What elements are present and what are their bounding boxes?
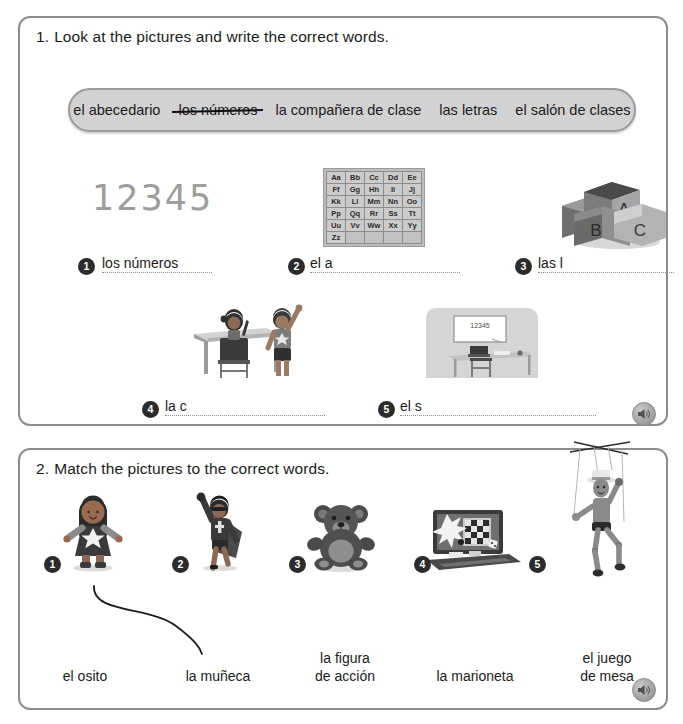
answer-text-4: la c <box>165 398 325 415</box>
marionette-image[interactable] <box>548 440 656 580</box>
alpha-cell-empty <box>403 232 422 244</box>
svg-text:C: C <box>634 221 646 240</box>
whiteboard-text: 12345 <box>470 322 490 329</box>
exercise-1-instruction: Look at the pictures and write the corre… <box>54 28 389 45</box>
alpha-cell: Ss <box>384 208 403 220</box>
word-bank-option-2[interactable]: los números <box>178 102 257 118</box>
answer-text-2: el a <box>310 255 460 272</box>
answer-slot-4[interactable]: la c <box>165 398 325 416</box>
picture-marker-1: 1 <box>44 556 61 573</box>
svg-text:B: B <box>590 221 601 240</box>
table-row: Ff Gg Hh Ii Jj <box>327 184 422 196</box>
answer-rule-5 <box>400 415 596 416</box>
action-figure-svg <box>186 492 258 572</box>
alpha-cell: Ww <box>365 220 384 232</box>
picture-marker-3: 3 <box>289 556 306 573</box>
exercise-1-card: 1.Look at the pictures and write the cor… <box>18 16 668 426</box>
alpha-cell: Gg <box>346 184 365 196</box>
match-word-2[interactable]: la muñeca <box>158 668 278 686</box>
match-word-1[interactable]: el osito <box>30 668 140 686</box>
alpha-cell-empty <box>365 232 384 244</box>
doll-image[interactable] <box>56 494 130 572</box>
classmates-svg <box>188 294 308 380</box>
alpha-cell: Xx <box>384 220 403 232</box>
answer-text-5: el s <box>400 398 596 415</box>
item-marker-5: 5 <box>378 401 395 418</box>
alpha-cell-empty <box>346 232 365 244</box>
alpha-cell: Jj <box>403 184 422 196</box>
alpha-cell: Mm <box>365 196 384 208</box>
match-word-5[interactable]: el juego de mesa <box>552 650 662 685</box>
alpha-cell: Kk <box>327 196 346 208</box>
answer-text-1: los números <box>102 255 212 272</box>
exercise-1-prompt: 1.Look at the pictures and write the cor… <box>36 28 389 46</box>
speaker-icon <box>637 408 651 420</box>
answer-rule-1 <box>102 272 212 273</box>
alpha-cell: Bb <box>346 172 365 184</box>
alpha-cell: Nn <box>384 196 403 208</box>
word-bank-option-3[interactable]: la compañera de clase <box>275 102 421 118</box>
teddy-bear-svg <box>300 498 382 572</box>
answer-rule-2 <box>310 272 460 273</box>
classroom-image: 12345 <box>430 296 542 378</box>
alpha-cell: Tt <box>403 208 422 220</box>
answer-text-3: las l <box>538 255 674 272</box>
table-row: Pp Qq Rr Ss Tt <box>327 208 422 220</box>
alpha-cell: Aa <box>327 172 346 184</box>
picture-marker-4: 4 <box>414 556 431 573</box>
table-row: Kk Ll Mm Nn Oo <box>327 196 422 208</box>
alphabet-chart-image: Aa Bb Cc Dd Ee Ff Gg Hh Ii Jj Kk Ll Mm <box>323 168 425 247</box>
answer-slot-1[interactable]: los números <box>102 255 212 273</box>
answer-slot-5[interactable]: el s <box>400 398 596 416</box>
table-row: Uu Vv Ww Xx Yy <box>327 220 422 232</box>
table-row: Zz <box>327 232 422 244</box>
alpha-cell: Cc <box>365 172 384 184</box>
abc-blocks-svg: A B C <box>556 168 676 250</box>
doll-svg <box>56 494 130 572</box>
alphabet-table: Aa Bb Cc Dd Ee Ff Gg Hh Ii Jj Kk Ll Mm <box>326 171 422 244</box>
item-marker-3: 3 <box>515 258 532 275</box>
item-marker-4: 4 <box>142 401 159 418</box>
alpha-cell: Oo <box>403 196 422 208</box>
alpha-cell: Zz <box>327 232 346 244</box>
answer-rule-3 <box>538 272 674 273</box>
picture-marker-2: 2 <box>172 556 189 573</box>
action-figure-image[interactable] <box>186 492 258 572</box>
table-row: Aa Bb Cc Dd Ee <box>327 172 422 184</box>
exercise-1-number: 1. <box>36 28 49 45</box>
classroom-svg: 12345 <box>430 296 542 378</box>
answer-slot-3[interactable]: las l <box>538 255 674 273</box>
item-marker-1: 1 <box>78 258 95 275</box>
speaker-icon <box>637 684 651 696</box>
alpha-cell: Yy <box>403 220 422 232</box>
alpha-cell: Ii <box>384 184 403 196</box>
word-bank-option-4[interactable]: las letras <box>439 102 497 118</box>
item-marker-2: 2 <box>288 258 305 275</box>
teddy-bear-image[interactable] <box>300 498 382 572</box>
numbers-graphic: 12345 <box>92 178 213 218</box>
word-bank-option-5[interactable]: el salón de clases <box>515 102 630 118</box>
audio-play-button-exercise-1[interactable] <box>632 402 656 426</box>
board-game-svg <box>425 508 521 572</box>
answer-slot-2[interactable]: el a <box>310 255 460 273</box>
alpha-cell-empty <box>384 232 403 244</box>
alpha-cell: Ll <box>346 196 365 208</box>
answer-rule-4 <box>165 415 325 416</box>
exercise-2-prompt: 2.Match the pictures to the correct word… <box>36 460 330 478</box>
match-word-4[interactable]: la marioneta <box>410 668 540 686</box>
alpha-cell: Hh <box>365 184 384 196</box>
exercise-2-number: 2. <box>36 460 49 477</box>
picture-marker-5: 5 <box>529 556 546 573</box>
marionette-svg <box>548 440 656 580</box>
match-word-3[interactable]: la figura de acción <box>290 650 400 685</box>
board-game-image[interactable] <box>425 508 521 572</box>
alpha-cell: Ff <box>327 184 346 196</box>
abc-blocks-image: A B C <box>556 168 676 250</box>
alpha-cell: Uu <box>327 220 346 232</box>
alpha-cell: Ee <box>403 172 422 184</box>
classmates-image <box>188 294 308 380</box>
word-bank: el abecedario los números la compañera d… <box>68 88 636 132</box>
word-bank-option-1[interactable]: el abecedario <box>73 102 160 118</box>
exercise-2-instruction: Match the pictures to the correct words. <box>54 460 329 477</box>
worksheet-page: 1.Look at the pictures and write the cor… <box>0 0 683 724</box>
